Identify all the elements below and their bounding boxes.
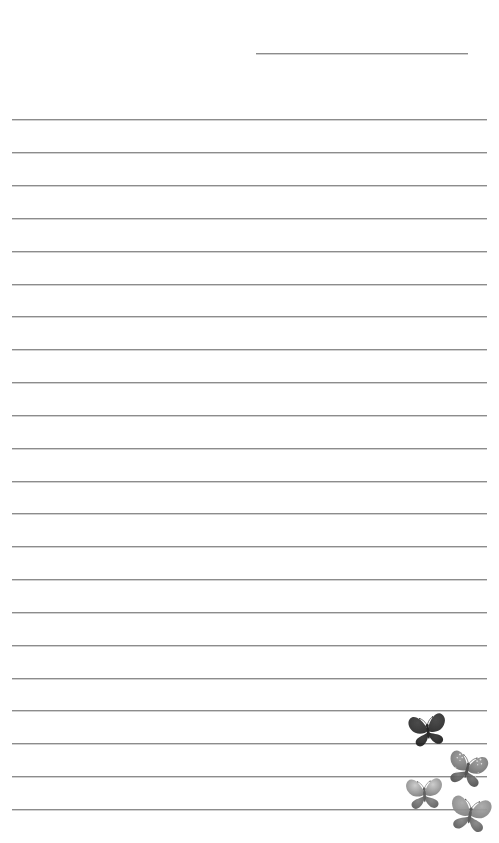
rule-2 [12,152,487,153]
butterfly-decoration-cluster [0,0,499,843]
rule-7 [12,316,487,317]
rule-18 [12,678,487,679]
rule-1 [12,119,487,120]
rule-10 [12,415,487,416]
header-rule [256,53,468,54]
butterfly-medium-gray-icon [441,786,499,843]
rule-6 [12,284,487,285]
rule-15 [12,579,487,580]
rule-3 [12,185,487,186]
rule-5 [12,251,487,252]
butterfly-dark-charcoal-icon [402,705,454,757]
rule-22 [12,809,487,810]
rule-9 [12,382,487,383]
rule-21 [12,776,487,777]
rule-14 [12,546,487,547]
stationery-page [0,0,499,843]
rule-16 [12,612,487,613]
rule-13 [12,513,487,514]
butterfly-light-gray-icon [401,771,448,818]
rule-11 [12,448,487,449]
rule-17 [12,645,487,646]
rule-8 [12,349,487,350]
rule-4 [12,218,487,219]
rule-20 [12,743,487,744]
rule-19 [12,710,487,711]
butterfly-spotted-gray-icon [438,741,496,799]
rule-12 [12,481,487,482]
